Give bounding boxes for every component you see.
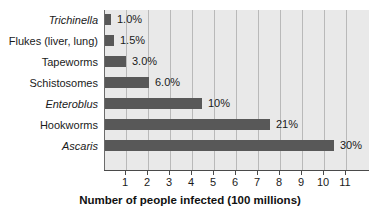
bar-value-flukes: 1.5% — [120, 34, 145, 47]
category-axis-labels: Trichinella Flukes (liver, lung) Tapewor… — [0, 10, 101, 170]
x-axis-ticklabel-6: 6 — [225, 176, 245, 188]
bar-value-enterobius: 10% — [208, 97, 230, 110]
x-axis-tick-11 — [345, 170, 346, 175]
bar-value-tapeworms: 3.0% — [132, 55, 157, 68]
x-axis-tick-1 — [125, 170, 126, 175]
x-axis-tick-6 — [235, 170, 236, 175]
x-axis-tick-9 — [301, 170, 302, 175]
bar-value-ascaris: 30% — [340, 139, 362, 152]
x-axis-tick-3 — [169, 170, 170, 175]
bar-value-schistosomes: 6.0% — [155, 76, 180, 89]
bar-ascaris — [105, 140, 334, 151]
category-label-hookworms: Hookworms — [40, 118, 98, 132]
bar-schistosomes — [105, 77, 149, 88]
bar-trichinella — [105, 14, 111, 25]
bar-flukes — [105, 35, 114, 46]
bar-hookworms — [105, 119, 270, 130]
x-axis-tick-7 — [257, 170, 258, 175]
x-axis-ticklabel-10: 10 — [313, 176, 333, 188]
category-label-schistosomes: Schistosomes — [30, 76, 98, 90]
bar-enterobius — [105, 98, 202, 109]
category-label-ascaris: Ascaris — [62, 139, 98, 153]
x-axis-ticklabel-7: 7 — [247, 176, 267, 188]
x-axis-tick-10 — [323, 170, 324, 175]
x-axis-tick-5 — [213, 170, 214, 175]
x-axis-ticklabel-1: 1 — [115, 176, 135, 188]
x-axis-line — [104, 170, 369, 171]
bar-value-hookworms: 21% — [276, 118, 298, 131]
x-axis-tick-4 — [191, 170, 192, 175]
category-label-enterobius: Enteroblus — [45, 97, 98, 111]
x-axis-tick-2 — [147, 170, 148, 175]
x-axis-ticklabel-2: 2 — [137, 176, 157, 188]
x-axis-ticklabel-9: 9 — [291, 176, 311, 188]
x-axis-tick-8 — [279, 170, 280, 175]
category-label-trichinella: Trichinella — [49, 13, 98, 27]
x-axis-title: Number of people infected (100 millions) — [0, 194, 380, 206]
category-label-tapeworms: Tapeworms — [42, 55, 98, 69]
x-axis-ticklabel-5: 5 — [203, 176, 223, 188]
x-axis-ticklabel-11: 11 — [335, 176, 355, 188]
bar-tapeworms — [105, 56, 126, 67]
category-label-flukes: Flukes (liver, lung) — [9, 34, 98, 48]
x-axis-ticklabel-8: 8 — [269, 176, 289, 188]
x-axis-ticklabel-4: 4 — [181, 176, 201, 188]
plot-area: 1.0% 1.5% 3.0% 6.0% 10% 21% 30% — [104, 10, 369, 170]
x-axis-ticklabel-3: 3 — [159, 176, 179, 188]
bar-value-trichinella: 1.0% — [117, 13, 142, 26]
bar-chart-figure: Trichinella Flukes (liver, lung) Tapewor… — [0, 0, 380, 219]
